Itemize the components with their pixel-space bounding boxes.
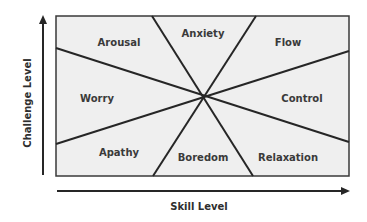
region-flow: Flow [275,37,301,48]
y-axis-label: Challenge Level [22,58,33,147]
region-boredom: Boredom [178,152,229,163]
x-axis-label: Skill Level [170,201,228,212]
region-worry: Worry [80,93,114,104]
region-relaxation: Relaxation [258,152,318,163]
region-apathy: Apathy [99,147,140,158]
region-arousal: Arousal [98,37,141,48]
x-axis-arrow [57,187,350,195]
y-axis-arrow [39,15,47,175]
flow-diagram: Arousal Anxiety Flow Worry Control Apath… [0,0,367,222]
region-anxiety: Anxiety [182,28,225,39]
region-control: Control [281,93,322,104]
